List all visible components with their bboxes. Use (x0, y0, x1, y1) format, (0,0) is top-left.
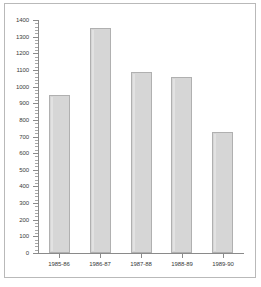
bar (212, 132, 233, 253)
chart-screenshot: 0100200300400500600700800900100011001200… (0, 0, 261, 287)
y-axis-minor-tick (35, 140, 38, 141)
y-axis-minor-tick (35, 97, 38, 98)
y-axis-tick-label: 400 (19, 183, 29, 189)
y-axis-minor-tick (35, 176, 38, 177)
y-axis-tick (33, 186, 38, 187)
y-axis-minor-tick (35, 23, 38, 24)
y-axis-tick (33, 170, 38, 171)
y-axis-minor-tick (35, 200, 38, 201)
y-axis-minor-tick (35, 150, 38, 151)
y-axis-tick (33, 137, 38, 138)
y-axis-minor-tick (35, 100, 38, 101)
y-axis-minor-tick (35, 33, 38, 34)
x-axis-tick-label: 1989-90 (203, 261, 243, 268)
y-axis-minor-tick (35, 80, 38, 81)
y-axis-minor-tick (35, 206, 38, 207)
y-axis-tick-label: 900 (19, 100, 29, 106)
y-axis-minor-tick (35, 216, 38, 217)
y-axis-tick (33, 87, 38, 88)
y-axis-minor-tick (35, 110, 38, 111)
y-axis-minor-tick (35, 190, 38, 191)
y-axis-minor-tick (35, 223, 38, 224)
y-axis-minor-tick (35, 210, 38, 211)
y-axis-tick (33, 103, 38, 104)
y-axis-minor-tick (35, 230, 38, 231)
y-axis-tick-label: 1300 (16, 34, 29, 40)
y-axis-minor-tick (35, 226, 38, 227)
y-axis-minor-tick (35, 183, 38, 184)
bar (90, 28, 111, 253)
y-axis-minor-tick (35, 156, 38, 157)
y-axis-minor-tick (35, 130, 38, 131)
y-axis-minor-tick (35, 146, 38, 147)
y-axis-minor-tick (35, 63, 38, 64)
y-axis-tick-label: 1100 (16, 67, 29, 73)
bar-highlight (133, 74, 135, 251)
y-axis-minor-tick (35, 243, 38, 244)
y-axis-tick-label: 1200 (16, 50, 29, 56)
y-axis-minor-tick (35, 57, 38, 58)
x-axis-tick-label: 1987-88 (121, 261, 161, 268)
y-axis-tick (33, 20, 38, 21)
y-axis-minor-tick (35, 73, 38, 74)
bar (49, 95, 70, 253)
x-axis-tick (141, 254, 142, 258)
y-axis-minor-tick (35, 60, 38, 61)
y-axis-minor-tick (35, 240, 38, 241)
y-axis-tick (33, 53, 38, 54)
y-axis-minor-tick (35, 50, 38, 51)
y-axis-minor-tick (35, 117, 38, 118)
y-axis-minor-tick (35, 193, 38, 194)
y-axis-line (38, 20, 39, 254)
y-axis-tick-label: 200 (19, 217, 29, 223)
y-axis-tick-label: 600 (19, 150, 29, 156)
y-axis-tick-label: 300 (19, 200, 29, 206)
y-axis-tick-label: 800 (19, 117, 29, 123)
x-axis-tick-label: 1988-89 (162, 261, 202, 268)
y-axis-tick-label: 700 (19, 134, 29, 140)
bar (131, 72, 152, 253)
y-axis-tick-label: 0 (26, 250, 29, 256)
bar-highlight (214, 134, 216, 251)
bar-highlight (173, 79, 175, 251)
x-axis-tick-label: 1986-87 (80, 261, 120, 268)
y-axis-minor-tick (35, 163, 38, 164)
y-axis-minor-tick (35, 233, 38, 234)
y-axis-minor-tick (35, 93, 38, 94)
y-axis-tick (33, 153, 38, 154)
y-axis-minor-tick (35, 127, 38, 128)
y-axis-tick (33, 236, 38, 237)
y-axis-minor-tick (35, 90, 38, 91)
x-axis-tick (59, 254, 60, 258)
x-axis-tick (182, 254, 183, 258)
y-axis-minor-tick (35, 67, 38, 68)
y-axis-tick (33, 120, 38, 121)
y-axis-tick (33, 37, 38, 38)
y-axis-tick-label: 1400 (16, 17, 29, 23)
y-axis-tick (33, 220, 38, 221)
y-axis-minor-tick (35, 133, 38, 134)
x-axis-tick (100, 254, 101, 258)
x-axis-tick-label: 1985-86 (39, 261, 79, 268)
bar-highlight (51, 97, 53, 251)
y-axis-minor-tick (35, 180, 38, 181)
y-axis-minor-tick (35, 166, 38, 167)
y-axis-tick-label: 1000 (16, 84, 29, 90)
y-axis-minor-tick (35, 83, 38, 84)
y-axis-minor-tick (35, 123, 38, 124)
y-axis-minor-tick (35, 250, 38, 251)
y-axis-tick (33, 70, 38, 71)
bar-chart: 0100200300400500600700800900100011001200… (0, 0, 261, 287)
bar (171, 77, 192, 253)
y-axis-tick (33, 203, 38, 204)
y-axis-minor-tick (35, 173, 38, 174)
y-axis-minor-tick (35, 47, 38, 48)
y-axis-minor-tick (35, 77, 38, 78)
y-axis-minor-tick (35, 27, 38, 28)
y-axis-minor-tick (35, 43, 38, 44)
y-axis-minor-tick (35, 196, 38, 197)
y-axis-minor-tick (35, 143, 38, 144)
x-axis-tick (223, 254, 224, 258)
y-axis-minor-tick (35, 160, 38, 161)
y-axis-minor-tick (35, 246, 38, 247)
